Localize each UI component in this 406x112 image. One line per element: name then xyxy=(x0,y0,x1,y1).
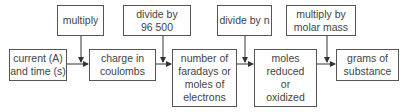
step-label: current (A) and time (s) xyxy=(10,52,65,78)
operation-multiply: multiply xyxy=(57,5,104,36)
step-current-and-time: current (A) and time (s) xyxy=(9,49,67,81)
operation-label: multiply by molar mass xyxy=(294,8,348,34)
step-label: charge in coulombs xyxy=(100,52,145,78)
step-label: moles reduced or oxidized xyxy=(266,52,305,104)
step-faradays: number of faradays or moles of electrons xyxy=(172,49,237,107)
operation-label: divide by 96 500 xyxy=(136,8,177,34)
electrolysis-flowchart: current (A) and time (s) charge in coulo… xyxy=(0,0,406,112)
step-moles: moles reduced or oxidized xyxy=(254,49,317,107)
operation-label: divide by n xyxy=(219,14,269,27)
step-grams: grams of substance xyxy=(336,49,399,81)
operation-multiply-by-molar-mass: multiply by molar mass xyxy=(286,5,356,36)
step-label: number of faradays or moles of electrons xyxy=(178,52,231,104)
operation-label: multiply xyxy=(63,14,99,27)
step-label: grams of substance xyxy=(344,52,392,78)
operation-divide-by-96500: divide by 96 500 xyxy=(123,5,191,36)
operation-divide-by-n: divide by n xyxy=(217,5,272,36)
step-charge: charge in coulombs xyxy=(89,49,156,81)
